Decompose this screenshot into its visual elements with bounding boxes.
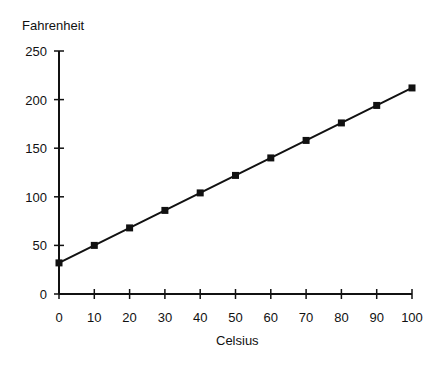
data-point-marker [161,207,168,214]
x-tick-label: 50 [228,310,242,325]
data-point-marker [338,119,345,126]
x-tick-label: 20 [122,310,136,325]
x-tick-label: 90 [369,310,383,325]
data-series [56,84,416,266]
x-tick-label: 80 [334,310,348,325]
x-tick-label: 100 [401,310,423,325]
x-tick-label: 10 [87,310,101,325]
data-point-marker [303,137,310,144]
data-point-marker [197,189,204,196]
y-tick-label: 0 [40,287,47,302]
x-tick-label: 0 [55,310,62,325]
x-tick-label: 70 [299,310,313,325]
data-point-marker [91,242,98,249]
y-tick-label: 100 [25,190,47,205]
data-point-marker [409,84,416,91]
y-tick-label: 50 [33,238,47,253]
data-point-marker [56,259,63,266]
x-axis-label: Celsius [216,333,259,348]
data-point-marker [267,154,274,161]
chart: Fahrenheit Celsius 050100150200250 01020… [0,0,444,367]
data-point-marker [126,224,133,231]
y-tick-label: 150 [25,141,47,156]
y-tick-label: 250 [25,44,47,59]
x-tick-label: 60 [264,310,278,325]
data-point-marker [373,102,380,109]
data-point-marker [232,172,239,179]
x-tick-label: 30 [158,310,172,325]
x-tick-label: 40 [193,310,207,325]
y-tick-label: 200 [25,93,47,108]
y-axis-label: Fahrenheit [22,18,85,33]
